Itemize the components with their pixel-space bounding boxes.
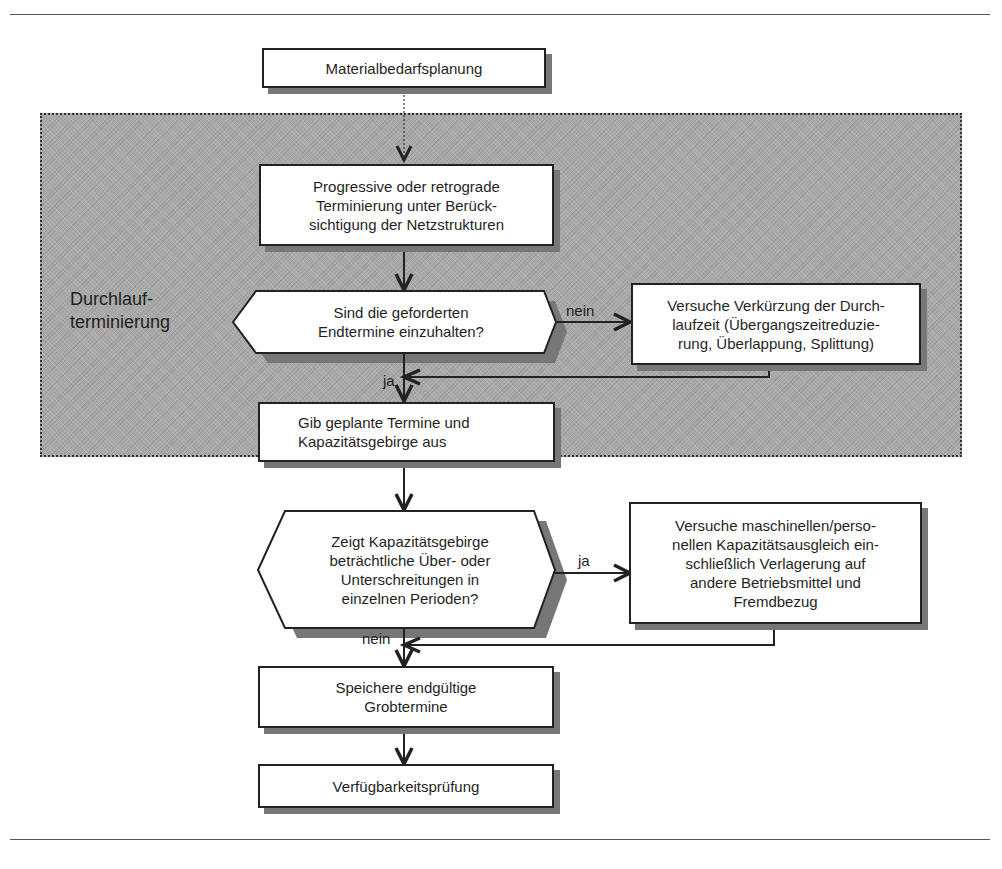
group-label: Durchlauf- terminierung <box>70 288 170 334</box>
edge-label-d1-ja: ja <box>383 372 395 389</box>
top-rule <box>10 14 990 15</box>
node-decision1-text: Sind die geforderten Endtermine einzuhal… <box>256 291 546 353</box>
edge-label-d2-nein: nein <box>362 630 390 647</box>
node-decision2-text: Zeigt Kapazitätsgebirge beträchtliche Üb… <box>285 511 535 628</box>
edge-label-d2-ja: ja <box>578 552 590 569</box>
node-terminierung: Progressive oder retrograde Terminierung… <box>259 164 554 246</box>
bottom-rule <box>10 839 990 840</box>
node-ausgleich: Versuche maschinellen/perso- nellen Kapa… <box>629 502 922 624</box>
edge-decision2-yes <box>555 565 630 581</box>
node-verfuegbarkeit: Verfügbarkeitsprüfung <box>258 764 554 808</box>
node-materialbedarfsplanung: Materialbedarfsplanung <box>262 48 546 88</box>
edge-label-d1-nein: nein <box>566 302 594 319</box>
edge-speichern-to-verfuegbarkeit <box>396 727 412 764</box>
node-verkuerzung: Versuche Verkürzung der Durch- laufzeit … <box>631 283 921 365</box>
edge-ausgabe-to-decision2 <box>396 462 412 510</box>
node-ausgabe: Gib geplante Termine und Kapazitätsgebir… <box>258 402 555 462</box>
node-speichern: Speichere endgültige Grobtermine <box>258 666 554 728</box>
edge-decision2-no <box>396 628 412 666</box>
